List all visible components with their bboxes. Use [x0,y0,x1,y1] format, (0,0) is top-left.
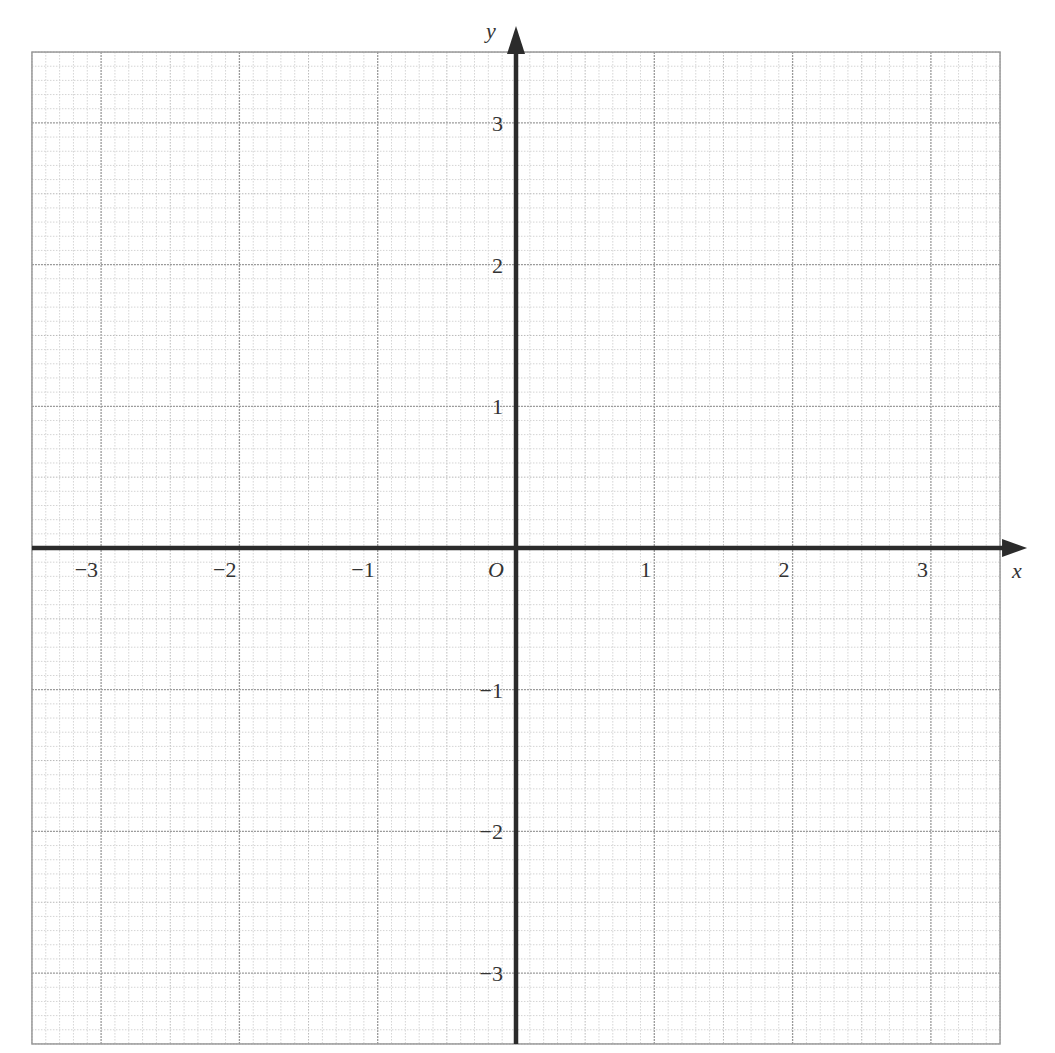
origin-label: O [488,557,504,582]
y-tick-label: 3 [492,111,503,136]
y-tick-label: −1 [480,678,503,703]
y-axis-arrow-icon [507,26,525,54]
x-tick-label: −2 [213,557,236,582]
x-tick-label: 3 [917,557,928,582]
y-axis-label: y [484,18,496,43]
x-axis-label: x [1011,558,1022,583]
x-tick-label: −3 [75,557,98,582]
coordinate-grid-chart: −3−2−1123321−1−2−3 x y O [0,0,1055,1053]
y-tick-label: −3 [480,961,503,986]
x-axis-arrow-icon [1002,539,1027,557]
y-tick-label: −2 [480,819,503,844]
x-tick-label: 1 [640,557,651,582]
y-tick-label: 1 [492,394,503,419]
x-tick-label: −1 [351,557,374,582]
x-tick-label: 2 [779,557,790,582]
y-tick-label: 2 [492,253,503,278]
